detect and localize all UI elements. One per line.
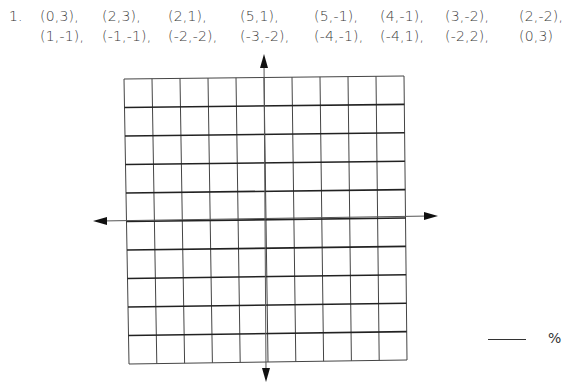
percent-label: % — [548, 330, 561, 346]
coordinate-grid[interactable] — [0, 0, 562, 385]
arrow-down-icon — [262, 368, 270, 382]
arrow-right-icon — [424, 212, 438, 220]
arrow-up-icon — [260, 54, 268, 68]
answer-blank[interactable] — [488, 339, 526, 340]
arrow-left-icon — [93, 217, 107, 225]
